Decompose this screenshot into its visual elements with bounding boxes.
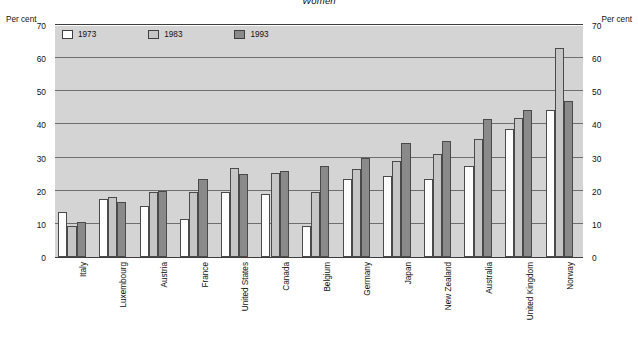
bar-group — [339, 26, 380, 257]
legend-label: 1993 — [250, 30, 268, 39]
bar — [311, 192, 320, 257]
bar — [108, 197, 117, 257]
bar — [392, 161, 401, 257]
bar — [117, 202, 126, 257]
bar — [474, 139, 483, 257]
x-axis-category-labels: ItalyLuxembourgAustriaFranceUnited State… — [55, 262, 583, 340]
bar — [361, 158, 370, 257]
bar-group — [461, 26, 502, 257]
bar-group — [421, 26, 462, 257]
x-label-canada: Canada — [282, 262, 291, 291]
legend-item-1993[interactable]: 1993 — [234, 30, 268, 39]
bar — [320, 166, 329, 257]
bar — [483, 119, 492, 257]
bar — [546, 110, 555, 257]
bar — [180, 219, 189, 257]
bar-group — [136, 26, 177, 257]
bar-group — [502, 26, 543, 257]
plot-area — [55, 26, 583, 258]
y-tick-left-30: 30 — [12, 154, 46, 164]
bar — [280, 171, 289, 257]
bar — [464, 166, 473, 257]
bar-group — [258, 26, 299, 257]
bar — [383, 176, 392, 257]
bar — [514, 118, 523, 257]
bar — [77, 222, 86, 257]
y-tick-right-20: 20 — [592, 187, 626, 197]
chart-figure: Women Per cent Per cent 010203040506070 … — [0, 0, 638, 341]
y-tick-right-0: 0 — [592, 253, 626, 263]
bar — [433, 154, 442, 257]
legend-swatch-icon — [62, 30, 73, 39]
chart-title: Women — [0, 0, 638, 6]
bar-group — [380, 26, 421, 257]
bar — [505, 129, 514, 257]
bar-group — [177, 26, 218, 257]
bar — [442, 141, 451, 257]
gridline-70 — [55, 24, 583, 25]
bar — [302, 226, 311, 257]
legend-swatch-icon — [148, 30, 159, 39]
legend-item-1983[interactable]: 1983 — [148, 30, 182, 39]
bar — [523, 110, 532, 257]
y-tick-left-40: 40 — [12, 120, 46, 130]
y-tick-left-70: 70 — [12, 21, 46, 31]
legend-label: 1973 — [78, 30, 96, 39]
y-tick-right-60: 60 — [592, 54, 626, 64]
bar — [189, 192, 198, 257]
y-tick-right-70: 70 — [592, 21, 626, 31]
bar-group — [299, 26, 340, 257]
y-tick-right-50: 50 — [592, 87, 626, 97]
y-tick-left-20: 20 — [12, 187, 46, 197]
bar — [67, 226, 76, 257]
x-label-norway: Norway — [566, 262, 575, 290]
x-label-united-kingdom: United Kingdom — [526, 262, 535, 320]
bar — [58, 212, 67, 257]
y-tick-right-40: 40 — [592, 120, 626, 130]
bar — [564, 101, 573, 257]
bar — [149, 192, 158, 257]
bar-group — [217, 26, 258, 257]
bar — [424, 179, 433, 257]
bars-layer — [55, 26, 583, 257]
legend: 197319831993 — [62, 30, 321, 39]
x-label-france: France — [201, 262, 210, 287]
bar — [239, 174, 248, 257]
bar — [99, 199, 108, 257]
legend-item-1973[interactable]: 1973 — [62, 30, 96, 39]
y-tick-left-0: 0 — [12, 253, 46, 263]
bar — [401, 143, 410, 257]
x-label-new-zealand: New Zealand — [444, 262, 453, 310]
y-tick-left-10: 10 — [12, 220, 46, 230]
x-label-australia: Australia — [485, 262, 494, 294]
x-label-belgium: Belgium — [323, 262, 332, 292]
bar — [221, 192, 230, 257]
y-tick-left-60: 60 — [12, 54, 46, 64]
bar — [352, 169, 361, 257]
bar — [271, 173, 280, 258]
bar — [261, 194, 270, 257]
bar-group — [542, 26, 583, 257]
legend-swatch-icon — [234, 30, 245, 39]
x-label-germany: Germany — [363, 262, 372, 296]
legend-label: 1983 — [164, 30, 182, 39]
y-tick-right-30: 30 — [592, 154, 626, 164]
bar-group — [96, 26, 137, 257]
bar-group — [55, 26, 96, 257]
bar — [140, 206, 149, 257]
bar — [198, 179, 207, 257]
bar — [158, 191, 167, 257]
x-label-united-states: United States — [241, 262, 250, 311]
y-tick-left-50: 50 — [12, 87, 46, 97]
y-tick-right-10: 10 — [592, 220, 626, 230]
x-label-austria: Austria — [160, 262, 169, 287]
x-label-luxembourg: Luxembourg — [119, 262, 128, 308]
bar — [343, 179, 352, 257]
bar — [230, 168, 239, 257]
x-label-italy: Italy — [79, 262, 88, 277]
bar — [555, 48, 564, 257]
x-label-japan: Japan — [404, 262, 413, 284]
